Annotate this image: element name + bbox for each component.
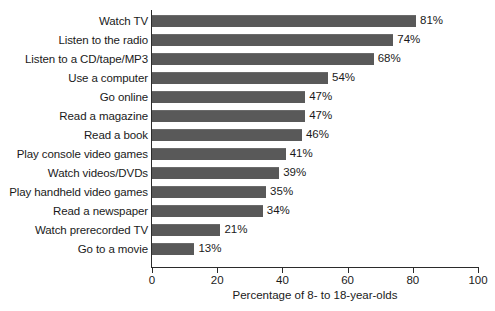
bar-value-label: 47% <box>305 108 332 124</box>
x-axis-tick-label: 80 <box>393 274 433 286</box>
bar-value-label: 34% <box>263 203 290 219</box>
bar-value-label: 68% <box>374 51 401 67</box>
bar-track <box>152 186 266 198</box>
bar <box>152 110 305 122</box>
bar <box>152 91 305 103</box>
bar <box>152 186 266 198</box>
table-row: Go online47% <box>0 88 495 107</box>
table-row: Play handheld video games35% <box>0 183 495 202</box>
bar <box>152 72 328 84</box>
bar <box>152 205 263 217</box>
category-label: Read a magazine <box>59 107 148 126</box>
x-axis-tick <box>413 268 414 273</box>
category-label: Use a computer <box>68 69 148 88</box>
x-axis-tick <box>217 268 218 273</box>
bar <box>152 15 416 27</box>
bar <box>152 243 194 255</box>
bar-track <box>152 148 286 160</box>
bar-track <box>152 53 374 65</box>
bar-track <box>152 72 328 84</box>
bar-track <box>152 224 220 236</box>
category-label: Watch TV <box>99 12 148 31</box>
bar <box>152 167 279 179</box>
category-label: Listen to a CD/tape/MP3 <box>25 50 148 69</box>
table-row: Read a newspaper34% <box>0 202 495 221</box>
bar <box>152 53 374 65</box>
bar-value-label: 54% <box>328 70 355 86</box>
x-axis-title: Percentage of 8- to 18-year-olds <box>152 289 478 301</box>
bar <box>152 129 302 141</box>
bar-value-label: 46% <box>302 127 329 143</box>
bar-track <box>152 15 416 27</box>
bar-value-label: 74% <box>393 32 420 48</box>
table-row: Read a magazine47% <box>0 107 495 126</box>
table-row: Go to a movie13% <box>0 240 495 259</box>
category-label: Read a book <box>84 126 148 145</box>
bar-track <box>152 129 302 141</box>
table-row: Watch TV81% <box>0 12 495 31</box>
table-row: Watch prerecorded TV21% <box>0 221 495 240</box>
table-row: Listen to a CD/tape/MP368% <box>0 50 495 69</box>
category-label: Go online <box>100 88 148 107</box>
x-axis-tick <box>282 268 283 273</box>
bar-track <box>152 243 194 255</box>
bar-value-label: 13% <box>194 241 221 257</box>
category-label: Listen to the radio <box>58 31 148 50</box>
bar-track <box>152 167 279 179</box>
bar-value-label: 41% <box>286 146 313 162</box>
category-label: Read a newspaper <box>53 202 148 221</box>
bar-value-label: 81% <box>416 13 443 29</box>
table-row: Play console video games41% <box>0 145 495 164</box>
category-label: Play console video games <box>17 145 148 164</box>
x-axis-tick-label: 100 <box>458 274 495 286</box>
bar <box>152 148 286 160</box>
table-row: Use a computer54% <box>0 69 495 88</box>
bar-value-label: 21% <box>220 222 247 238</box>
bar-track <box>152 91 305 103</box>
x-axis-tick-label: 40 <box>262 274 302 286</box>
table-row: Listen to the radio74% <box>0 31 495 50</box>
x-axis-tick-label: 60 <box>328 274 368 286</box>
bar-value-label: 39% <box>279 165 306 181</box>
category-label: Play handheld video games <box>9 183 148 202</box>
bar-track <box>152 34 393 46</box>
bar-value-label: 35% <box>266 184 293 200</box>
bar-track <box>152 205 263 217</box>
x-axis-line <box>151 267 479 268</box>
bar-track <box>152 110 305 122</box>
bar-value-label: 47% <box>305 89 332 105</box>
table-row: Watch videos/DVDs39% <box>0 164 495 183</box>
x-axis-tick <box>348 268 349 273</box>
x-axis-tick <box>478 268 479 273</box>
x-axis-tick <box>152 268 153 273</box>
table-row: Read a book46% <box>0 126 495 145</box>
category-label: Watch videos/DVDs <box>48 164 148 183</box>
x-axis-tick-label: 20 <box>197 274 237 286</box>
x-axis-tick-label: 0 <box>132 274 172 286</box>
bar <box>152 224 220 236</box>
bar <box>152 34 393 46</box>
category-label: Go to a movie <box>78 240 148 259</box>
category-label: Watch prerecorded TV <box>35 221 148 240</box>
bar-chart: Watch TV81%Listen to the radio74%Listen … <box>0 0 495 311</box>
